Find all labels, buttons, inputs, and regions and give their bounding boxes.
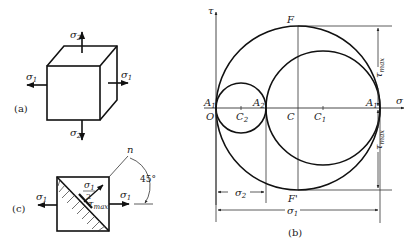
caption-b: (b) — [288, 227, 302, 238]
label-sigma-axis: σ — [396, 95, 404, 106]
panel-b-mohr: τ σ O A1 A2 A1 C2 C C1 F F' τmax τmax σ2… — [203, 5, 404, 238]
label-sigma1-right: σ1 — [120, 189, 131, 202]
label-C1: C1 — [314, 111, 326, 124]
label-sigma2-top: σ2 — [70, 29, 82, 42]
label-F: F — [286, 14, 295, 25]
label-sigma1-left: σ1 — [26, 71, 37, 84]
cube-front-face — [47, 66, 100, 120]
label-normal-n: n — [127, 144, 133, 155]
cube-back-edges — [47, 46, 117, 120]
label-tau-axis: τ — [208, 5, 214, 16]
label-origin: O — [206, 111, 214, 122]
panel-c-element: n 45° σ1 2 τmax σ1 σ1 (c) — [12, 144, 156, 231]
label-sigma2-bottom: σ2 — [70, 127, 82, 140]
label-F-prime: F' — [287, 193, 298, 204]
label-angle: 45° — [140, 174, 156, 184]
label-sigma1-left: σ1 — [36, 191, 47, 204]
normal-line — [109, 156, 128, 177]
label-C: C — [287, 111, 295, 122]
svg-text:τmax: τmax — [373, 58, 386, 78]
caption-c: (c) — [12, 203, 26, 214]
cube-edge — [100, 46, 117, 66]
caption-a: (a) — [14, 103, 28, 114]
label-dim-sigma2: σ2 — [235, 187, 247, 200]
label-tau-max-upper: τmax — [373, 58, 386, 78]
label-C2: C2 — [236, 111, 249, 124]
mohr-circle-figure: σ2 σ2 σ1 σ1 (a) — [0, 0, 416, 250]
label-tau-max: τmax — [88, 198, 108, 211]
label-sigma1-right: σ1 — [121, 69, 132, 82]
label-dim-sigma1: σ1 — [287, 205, 298, 218]
panel-a-cube: σ2 σ2 σ1 σ1 (a) — [14, 29, 132, 140]
label-sigma1-over-2-num: σ1 — [84, 180, 95, 192]
